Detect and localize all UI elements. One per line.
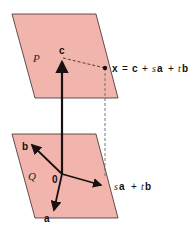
svg-text:c: c: [132, 63, 138, 74]
parallel-planes-diagram: P Q c b a 0 x = c + s a + t b s a + t b: [0, 0, 196, 230]
svg-text:=: =: [122, 63, 128, 74]
plane-p: [12, 14, 118, 98]
svg-text:+: +: [168, 63, 174, 74]
svg-text:x: x: [112, 63, 118, 74]
svg-text:t: t: [178, 63, 181, 74]
label-vector-b: b: [22, 141, 28, 152]
label-sa-tb: s a + t b: [114, 181, 151, 192]
svg-text:s: s: [152, 63, 156, 74]
label-plane-p: P: [32, 52, 40, 64]
equation-x: x = c + s a + t b: [112, 63, 188, 74]
svg-text:a: a: [119, 181, 125, 192]
svg-text:b: b: [182, 63, 188, 74]
svg-text:b: b: [145, 181, 151, 192]
label-plane-q: Q: [28, 170, 36, 182]
svg-text:+: +: [131, 181, 137, 192]
svg-text:t: t: [141, 181, 144, 192]
svg-text:a: a: [157, 63, 163, 74]
label-origin: 0: [52, 174, 58, 185]
svg-text:s: s: [114, 181, 118, 192]
point-x: [103, 66, 107, 70]
label-vector-a: a: [44, 213, 50, 224]
svg-text:+: +: [142, 63, 148, 74]
label-vector-c: c: [59, 45, 65, 56]
